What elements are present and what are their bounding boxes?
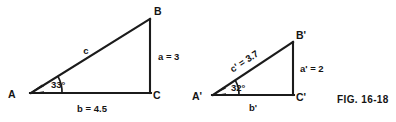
triangle-abc-side-c-line — [31, 19, 150, 93]
triangle-abc-prime-vertex-c-label: C' — [296, 91, 306, 103]
triangle-abc-angle-label: 33° — [51, 79, 66, 90]
triangle-abc-side-a-label: a = 3 — [158, 51, 179, 62]
triangle-abc-side-b-label: b = 4.5 — [77, 103, 108, 114]
figure-caption: FIG. 16-18 — [337, 94, 389, 105]
triangle-abc-vertex-a-label: A — [8, 88, 16, 100]
triangle-abc-prime-side-c-label: c' = 3.7 — [228, 48, 260, 75]
triangle-abc-group — [29, 19, 151, 94]
triangle-abc-prime-side-a-label: a' = 2 — [300, 63, 324, 74]
triangle-abc-prime-vertex-b-label: B' — [296, 29, 306, 41]
triangle-abc-prime-angle-label: 32° — [231, 82, 246, 93]
triangle-abc-side-c-label: c — [83, 45, 88, 56]
figure-container: A B C c a = 3 b = 4.5 33° A' B' C' c' — [0, 0, 396, 122]
triangle-abc-vertex-b-label: B — [154, 5, 162, 17]
triangle-abc-prime-vertex-a-label: A' — [192, 90, 202, 102]
figure-drawing: A B C c a = 3 b = 4.5 33° A' B' C' c' — [0, 0, 396, 122]
triangle-abc-prime-side-b-label: b' — [249, 102, 257, 113]
triangle-abc-vertex-c-label: C — [153, 89, 161, 101]
